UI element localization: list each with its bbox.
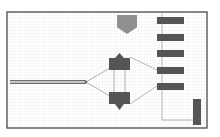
side-vertical-bar[interactable] (193, 99, 201, 125)
terminal-bar-3[interactable] (157, 50, 184, 57)
schematic-drawing (0, 0, 220, 137)
diagram-canvas[interactable] (0, 0, 220, 137)
terminal-bar-2[interactable] (157, 34, 184, 41)
terminal-bar-1[interactable] (157, 17, 184, 24)
terminal-bar-5[interactable] (157, 83, 184, 90)
terminal-bar-4[interactable] (157, 67, 184, 74)
junction-node (85, 81, 88, 84)
